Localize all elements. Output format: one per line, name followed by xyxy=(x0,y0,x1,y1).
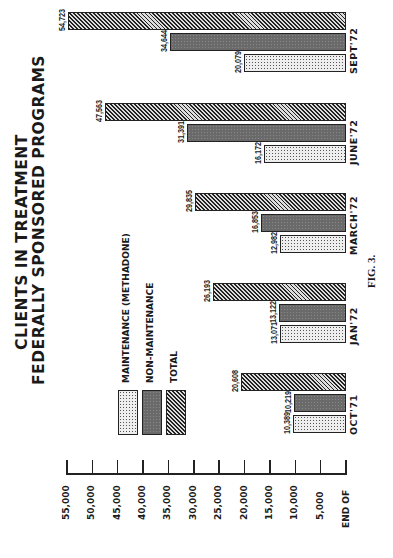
axis-tick xyxy=(345,460,346,474)
category-label: JAN'72 xyxy=(348,307,359,345)
bar-value-label: 26,193 xyxy=(202,280,212,302)
axis-tick xyxy=(168,460,169,474)
axis-tick xyxy=(244,460,245,474)
bar-value-label: 47,563 xyxy=(94,100,104,122)
legend-swatch-total xyxy=(166,390,186,435)
axis-tick xyxy=(269,460,270,474)
chart-subtitle: FEDERALLY SPONSORED PROGRAMS xyxy=(31,55,48,385)
bar-value-label: 31,391 xyxy=(176,121,186,143)
bar-total xyxy=(68,12,346,30)
bar-value-label: 16,853 xyxy=(250,211,260,233)
category-label: MARCH'72 xyxy=(348,196,359,255)
bar-non-maintenance xyxy=(187,124,346,142)
axis-tick-label: 35,000 xyxy=(162,485,172,520)
axis-tick-label: 55,000 xyxy=(61,485,71,520)
axis-tick xyxy=(117,460,118,474)
bar-value-label: 12,982 xyxy=(269,232,279,254)
bar-maintenance xyxy=(244,54,346,72)
bar-value-label: 54,723 xyxy=(57,9,67,31)
axis-title: END OF xyxy=(341,490,351,528)
legend-swatch-maintenance xyxy=(118,390,138,435)
axis-tick xyxy=(320,460,321,474)
bar-maintenance xyxy=(264,145,346,163)
category-label: JUNE'72 xyxy=(348,120,359,165)
axis-tick-label: 15,000 xyxy=(264,485,274,520)
chart-title: CLIENTS IN TREATMENT xyxy=(14,134,31,350)
bar-total xyxy=(105,103,346,121)
bar-value-label: 13,071 xyxy=(269,322,279,344)
bar-non-maintenance xyxy=(261,214,346,232)
bar-value-label: 10,219 xyxy=(283,391,293,413)
axis-tick-label: 20,000 xyxy=(239,485,249,520)
bar-non-maintenance xyxy=(294,394,346,412)
axis-tick xyxy=(92,460,93,474)
bar-total xyxy=(213,283,346,301)
bar-value-label: 16,172 xyxy=(253,142,263,164)
axis-tick-label: 30,000 xyxy=(188,485,198,520)
value-axis-line xyxy=(66,473,347,475)
axis-tick-label: 45,000 xyxy=(112,485,122,520)
bar-total xyxy=(195,193,346,211)
bar-non-maintenance xyxy=(170,33,346,51)
axis-tick-label: 50,000 xyxy=(86,485,96,520)
bar-value-label: 20,608 xyxy=(230,370,240,392)
legend-label: NON-MAINTENANCE xyxy=(145,283,155,383)
bar-non-maintenance xyxy=(279,304,346,322)
axis-tick xyxy=(142,460,143,474)
bar-maintenance xyxy=(293,415,346,433)
bar-value-label: 20,079 xyxy=(233,51,243,73)
bar-total xyxy=(241,373,346,391)
axis-tick-label: 40,000 xyxy=(137,485,147,520)
axis-tick xyxy=(295,460,296,474)
axis-tick xyxy=(193,460,194,474)
bar-maintenance xyxy=(280,325,346,343)
category-label: OCT'71 xyxy=(348,394,359,435)
axis-tick xyxy=(218,460,219,474)
bar-value-label: 34,644 xyxy=(159,30,169,52)
legend-swatch-non-maintenance xyxy=(142,390,162,435)
category-label: SEPT'72 xyxy=(348,28,359,74)
axis-tick-label: 25,000 xyxy=(213,485,223,520)
axis-tick xyxy=(66,460,67,474)
bar-value-label: 10,389 xyxy=(282,412,292,434)
legend-label: MAINTENANCE (METHADONE) xyxy=(121,233,131,383)
bar-maintenance xyxy=(280,235,346,253)
bar-value-label: 29,835 xyxy=(184,190,194,212)
axis-tick-label: 10,000 xyxy=(289,485,299,520)
figure-caption: FIG. 3. xyxy=(365,255,377,288)
bar-value-label: 13,122 xyxy=(268,301,278,323)
axis-tick-label: 5,000 xyxy=(315,492,325,520)
legend-label: TOTAL xyxy=(169,351,179,383)
